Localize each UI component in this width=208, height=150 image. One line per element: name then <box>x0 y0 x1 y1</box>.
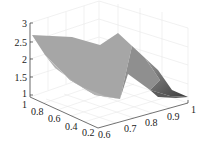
y-tick-labels: 1 0.8 0.6 0.4 0.2 <box>22 99 95 138</box>
z-tick-label: 2.5 <box>15 37 28 48</box>
surface <box>32 33 188 99</box>
y-tick-label: 1 <box>22 99 27 110</box>
y-tick-label: 0.6 <box>48 113 61 124</box>
y-tick-label: 0.8 <box>31 106 44 117</box>
x-tick-label: 0.7 <box>124 123 137 134</box>
x-tick-label: 1 <box>191 104 196 115</box>
z-tick-label: 3 <box>22 18 27 29</box>
z-tick-label: 2 <box>22 54 27 65</box>
x-tick-label: 0.9 <box>167 111 180 122</box>
surface-plot: 3 2.5 2 1.5 1 1 0.8 0.6 0.4 0.2 0.6 0.7 … <box>0 0 208 150</box>
z-tick-label: 1.5 <box>15 72 28 83</box>
y-tick-label: 0.4 <box>65 121 78 132</box>
x-tick-label: 0.8 <box>145 117 158 128</box>
z-tick-label: 1 <box>22 88 27 99</box>
z-tick-labels: 3 2.5 2 1.5 1 <box>15 18 28 99</box>
x-tick-label: 0.6 <box>98 129 111 140</box>
y-tick-label: 0.2 <box>82 127 95 138</box>
